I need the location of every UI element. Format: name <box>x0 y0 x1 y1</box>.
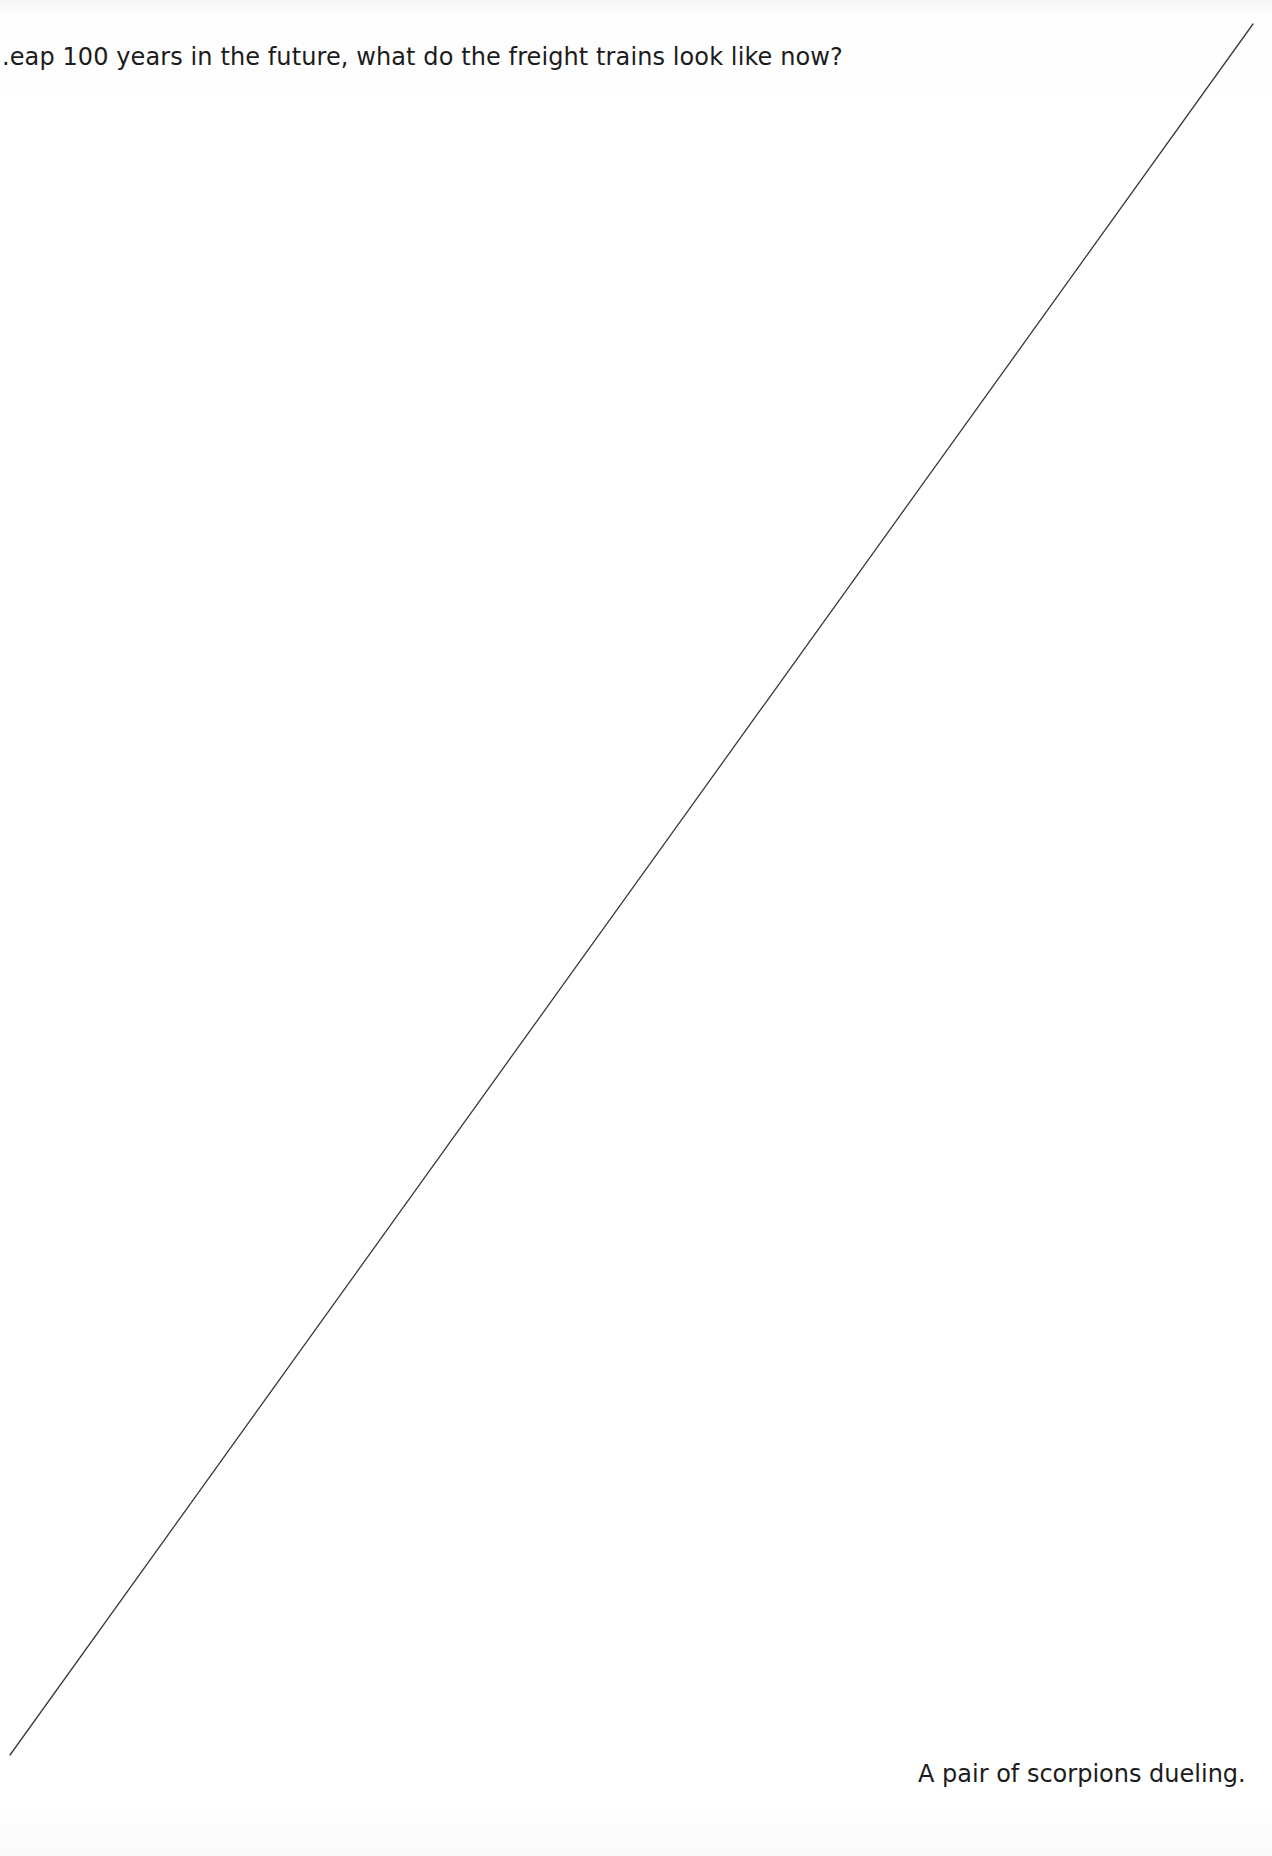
divider-stroke <box>10 24 1253 1755</box>
diagonal-divider-line <box>0 0 1272 1856</box>
sketchbook-page: .eap 100 years in the future, what do th… <box>0 0 1272 1856</box>
bottom-drawing-prompt: A pair of scorpions dueling. <box>918 1759 1246 1789</box>
